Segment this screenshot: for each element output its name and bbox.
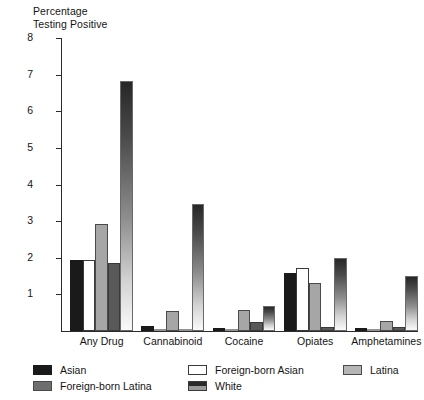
bar[interactable]: [321, 327, 334, 331]
bar[interactable]: [355, 328, 368, 331]
y-tick-label: 3: [11, 214, 33, 226]
legend-label-fb-latina: Foreign-born Latina: [60, 380, 152, 392]
bar-group: [355, 38, 418, 331]
y-axis-title-line1: Percentage: [33, 5, 88, 17]
bar[interactable]: [405, 276, 418, 331]
y-tick-label: 2: [11, 251, 33, 263]
legend-label-asian: Asian: [60, 364, 86, 376]
bar-group: [284, 38, 347, 331]
y-tick-label: 5: [11, 141, 33, 153]
bar[interactable]: [213, 328, 226, 331]
bar-group: [141, 38, 204, 331]
bar[interactable]: [179, 329, 192, 331]
bar[interactable]: [284, 273, 297, 331]
bar[interactable]: [334, 258, 347, 331]
y-axis-title-line2: Testing Positive: [33, 18, 108, 30]
bar[interactable]: [367, 329, 380, 331]
bar-chart-figure: Percentage Testing Positive 12345678 Any…: [0, 0, 424, 400]
bar[interactable]: [166, 311, 179, 331]
y-tick-label: 4: [11, 178, 33, 190]
y-tick-label: 6: [11, 104, 33, 116]
bar[interactable]: [95, 224, 108, 331]
bar[interactable]: [141, 326, 154, 331]
chart-legend: AsianForeign-born LatinaForeign-born Asi…: [33, 362, 418, 398]
bar[interactable]: [263, 306, 276, 331]
legend-item-fb-latina[interactable]: Foreign-born Latina: [33, 380, 152, 392]
legend-swatch-latina: [343, 365, 362, 375]
bar-group: [213, 38, 276, 331]
bar[interactable]: [296, 268, 309, 331]
x-axis-label-any-drug: Any Drug: [80, 335, 124, 347]
x-axis-label-cocaine: Cocaine: [225, 335, 264, 347]
bar[interactable]: [154, 329, 167, 331]
bar[interactable]: [380, 321, 393, 331]
x-axis-label-amphetamines: Amphetamines: [351, 335, 421, 347]
bar[interactable]: [70, 260, 83, 331]
bar[interactable]: [238, 310, 251, 331]
bar[interactable]: [250, 322, 263, 331]
bar[interactable]: [225, 329, 238, 331]
x-axis-line: [61, 331, 418, 332]
x-axis-label-cannabinoid: Cannabinoid: [143, 335, 202, 347]
y-tick-label: 8: [11, 31, 33, 43]
legend-label-latina: Latina: [370, 364, 399, 376]
legend-swatch-asian: [33, 365, 52, 375]
bar-groups: [62, 38, 418, 331]
y-tick-label: 7: [11, 68, 33, 80]
legend-swatch-white: [188, 381, 207, 391]
y-axis-title: Percentage Testing Positive: [33, 5, 108, 30]
plot-area: 12345678 Any DrugCannabinoidCocaineOpiat…: [33, 38, 418, 332]
legend-swatch-fb-asian: [188, 365, 207, 375]
legend-item-fb-asian[interactable]: Foreign-born Asian: [188, 364, 304, 376]
bar[interactable]: [393, 327, 406, 331]
bar[interactable]: [120, 81, 133, 331]
legend-swatch-fb-latina: [33, 381, 52, 391]
bar[interactable]: [192, 204, 205, 331]
legend-item-latina[interactable]: Latina: [343, 364, 399, 376]
legend-item-white[interactable]: White: [188, 380, 242, 392]
legend-label-fb-asian: Foreign-born Asian: [215, 364, 304, 376]
y-tick-label: 1: [11, 287, 33, 299]
legend-label-white: White: [215, 380, 242, 392]
bar-group: [70, 38, 133, 331]
x-axis-label-opiates: Opiates: [297, 335, 333, 347]
bar[interactable]: [83, 260, 96, 331]
bar[interactable]: [309, 283, 322, 331]
legend-item-asian[interactable]: Asian: [33, 364, 86, 376]
bar[interactable]: [108, 263, 121, 331]
